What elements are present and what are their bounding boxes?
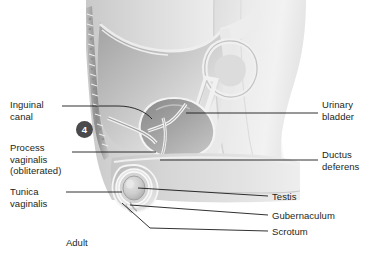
label-line: vaginalis <box>10 154 61 166</box>
label-inguinal-canal: Inguinal canal <box>10 99 44 122</box>
label-line: Scrotum <box>272 226 308 238</box>
label-scrotum: Scrotum <box>272 226 308 238</box>
label-line: canal <box>10 111 44 123</box>
label-line: Urinary <box>322 99 354 111</box>
label-gubernaculum: Gubernaculum <box>272 210 335 222</box>
figure-caption: Adult <box>66 237 88 248</box>
stage-badge: 4 <box>76 121 93 138</box>
label-tunica-vaginalis: Tunica vaginalis <box>10 186 47 209</box>
label-line: (obliterated) <box>10 165 61 177</box>
label-line: Ductus <box>322 149 359 161</box>
label-line: Inguinal <box>10 99 44 111</box>
label-line: Gubernaculum <box>272 210 335 222</box>
label-line: Tunica <box>10 186 47 198</box>
anatomy-figure: 4 Inguinal canal Process vaginalis (obli… <box>0 0 372 258</box>
leader-gubernaculum <box>130 205 268 215</box>
label-line: Process <box>10 142 61 154</box>
label-line: deferens <box>322 161 359 173</box>
label-testis: Testis <box>272 191 297 203</box>
label-urinary-bladder: Urinary bladder <box>322 99 354 122</box>
label-line: bladder <box>322 111 354 123</box>
label-process-vaginalis: Process vaginalis (obliterated) <box>10 142 61 177</box>
label-line: vaginalis <box>10 198 47 210</box>
label-line: Testis <box>272 191 297 203</box>
label-ductus-deferens: Ductus deferens <box>322 149 359 172</box>
